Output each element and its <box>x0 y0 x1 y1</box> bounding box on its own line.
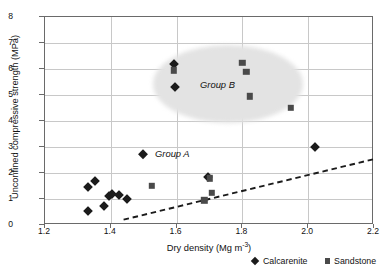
y-tick-label-7: 7 <box>0 37 13 47</box>
y-tick-label-3: 3 <box>0 141 13 151</box>
group-a-annotation-label: Group A <box>155 148 190 159</box>
chart-legend: Calcarenite Sandstone <box>252 256 376 266</box>
x-axis-label-paren: ) <box>248 243 251 253</box>
y-tick-label-4: 4 <box>0 115 13 125</box>
data-point-sandstone <box>148 183 154 189</box>
x-tick-label-1-4: 1.4 <box>90 226 130 236</box>
data-point-sandstone <box>239 59 245 65</box>
data-point-sandstone <box>171 67 177 73</box>
x-axis-label: Dry density (Mg m-3) <box>44 241 374 253</box>
y-tick-label-5: 5 <box>0 89 13 99</box>
data-point-sandstone <box>208 189 214 195</box>
legend-item-sandstone: Sandstone <box>325 256 377 266</box>
data-point-sandstone <box>246 93 252 99</box>
x-tick-label-1-6: 1.6 <box>156 226 196 236</box>
data-point-sandstone <box>206 175 212 181</box>
y-tick-label-1: 1 <box>0 193 13 203</box>
y-tick-label-2: 2 <box>0 167 13 177</box>
x-axis-label-text: Dry density (Mg m <box>167 243 242 253</box>
y-tick-label-0: 0 <box>0 219 13 229</box>
data-point-sandstone <box>288 105 294 111</box>
y-tick-label-8: 8 <box>0 11 13 21</box>
legend-label-calcarenite: Calcarenite <box>263 256 308 266</box>
x-tick-label-2-0: 2.0 <box>287 226 327 236</box>
legend-item-calcarenite: Calcarenite <box>252 256 308 266</box>
plot-area: Group B Group A <box>44 16 373 224</box>
data-point-sandstone <box>243 68 249 74</box>
legend-label-sandstone: Sandstone <box>334 256 376 266</box>
group-b-annotation-label: Group B <box>200 79 235 90</box>
data-point-sandstone <box>201 197 207 203</box>
y-tick-label-6: 6 <box>0 63 13 73</box>
x-tick-label-2-2: 2.2 <box>353 226 390 236</box>
x-tick-label-1-2: 1.2 <box>24 226 64 236</box>
scatter-chart-figure: Unconfined compressive strength (MPa) 8 … <box>0 0 390 276</box>
x-tick-label-1-8: 1.8 <box>221 226 261 236</box>
legend-diamond-icon <box>251 257 259 265</box>
legend-square-icon <box>325 258 331 264</box>
